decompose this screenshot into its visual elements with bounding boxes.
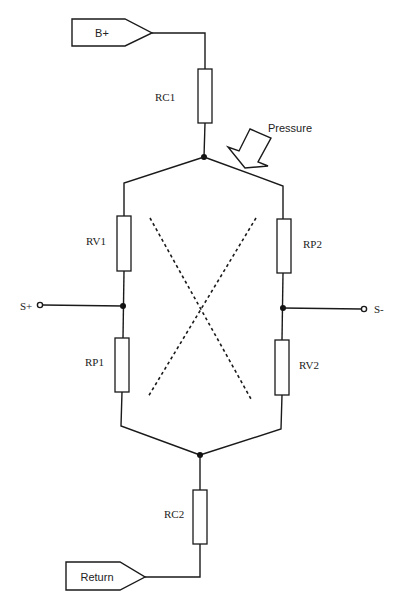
resistor-rp1-body <box>115 338 129 392</box>
positive-output-label: S+ <box>20 300 32 312</box>
resistor-rp2: RP2 <box>277 219 322 273</box>
resistor-rc2-body <box>193 490 207 544</box>
pressure-label: Pressure <box>268 122 312 134</box>
resistor-rp1-label: RP1 <box>85 356 104 368</box>
resistor-rp1: RP1 <box>85 338 129 392</box>
supply-connector-shape <box>72 19 152 46</box>
supply-connector-label: B+ <box>95 27 109 39</box>
resistor-rv1-label: RV1 <box>86 235 106 247</box>
resistor-rc2-label: RC2 <box>164 508 184 520</box>
negative-output-wire <box>283 308 361 309</box>
resistor-rp2-label: RP2 <box>303 238 322 250</box>
return-connector: Return <box>66 562 145 590</box>
bottom-left-wire <box>121 392 200 455</box>
resistor-rv1-body <box>117 216 131 271</box>
resistor-rv2-label: RV2 <box>299 359 319 371</box>
resistor-rc1-label: RC1 <box>155 91 175 103</box>
resistor-rc1-body <box>198 69 212 123</box>
resistor-rc2: RC2 <box>164 490 207 544</box>
resistor-rp2-body <box>277 219 291 273</box>
pressure-arrow: Pressure <box>228 122 312 168</box>
positive-output-wire <box>43 305 123 306</box>
supply-wire <box>152 33 205 69</box>
negative-output-terminal <box>361 306 366 311</box>
negative-output-label: S- <box>374 303 384 315</box>
resistor-rv2-body <box>275 340 289 395</box>
top-left-wire <box>124 157 204 216</box>
positive-output-terminal <box>37 302 42 307</box>
resistor-rc1: RC1 <box>155 69 212 123</box>
rc1-to-top-node-wire <box>204 123 205 157</box>
return-connector-label: Return <box>80 571 113 583</box>
bridge-circuit-diagram: B+ RC1 Pressure RV1 S+ RP1 RP2 S- <box>0 0 403 606</box>
diagonal-dashed-line-1 <box>150 218 251 399</box>
supply-connector: B+ <box>72 19 152 46</box>
bottom-right-wire <box>200 395 282 455</box>
resistor-rv1: RV1 <box>86 216 131 271</box>
resistor-rv2: RV2 <box>275 340 319 395</box>
return-wire <box>145 544 200 577</box>
pressure-arrow-icon <box>228 129 271 168</box>
